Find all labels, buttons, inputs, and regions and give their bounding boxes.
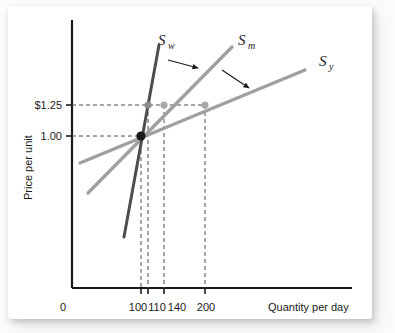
- x-tick-label-100: 100: [129, 301, 147, 313]
- curve-label-sw-base: S: [158, 32, 166, 48]
- marker-sm-point: [160, 101, 167, 108]
- x-tick-label-110: 110: [148, 301, 166, 313]
- curve-label-sw-subscript: w: [168, 40, 175, 51]
- curve-label-sw: S w: [158, 32, 175, 51]
- supply-curve-chart: S w S m S y $1.25 1.00 0 100 110 140 200…: [0, 0, 395, 333]
- marker-sy-point: [201, 101, 208, 108]
- y-tick-label-100: 1.00: [41, 130, 62, 142]
- curve-label-sy: S y: [319, 53, 334, 72]
- curve-sy: [80, 70, 305, 163]
- screenshot-root: S w S m S y $1.25 1.00 0 100 110 140 200…: [0, 0, 395, 333]
- arrow-sm-to-sy-icon: [222, 70, 249, 88]
- y-axis-title: Price per unit: [22, 135, 34, 200]
- x-tick-label-140: 140: [168, 301, 186, 313]
- curve-label-sy-subscript: y: [328, 61, 334, 72]
- curve-label-sm: S m: [238, 32, 255, 51]
- curve-label-sm-subscript: m: [248, 40, 255, 51]
- y-tick-label-125: $1.25: [34, 99, 62, 111]
- marker-sw-point: [144, 101, 151, 108]
- x-tick-label-0: 0: [60, 301, 66, 313]
- arrow-sw-to-sm-icon: [168, 60, 198, 68]
- curve-label-sm-base: S: [238, 32, 246, 48]
- marker-equilibrium-point: [136, 131, 145, 140]
- x-tick-label-200: 200: [197, 301, 215, 313]
- x-axis-title: Quantity per day: [268, 301, 349, 313]
- curve-label-sy-base: S: [319, 53, 327, 69]
- curve-sm: [88, 47, 232, 193]
